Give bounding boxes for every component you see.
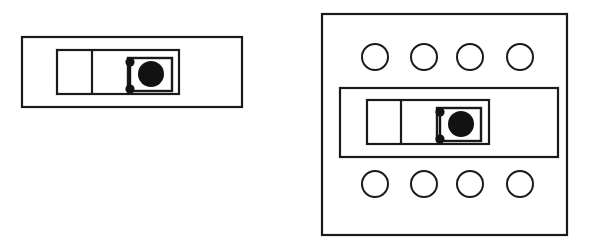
left-upper-node [125,57,134,66]
left-lower-node [125,84,134,93]
diagram-root [0,0,589,248]
right-panel-group [322,14,567,235]
left-panel-group [22,37,242,107]
right-core-disc [448,111,474,137]
right-upper-node [435,107,444,116]
assembly-diagram-canvas [0,0,589,248]
left-core-disc [138,61,164,87]
right-lower-node [435,134,444,143]
